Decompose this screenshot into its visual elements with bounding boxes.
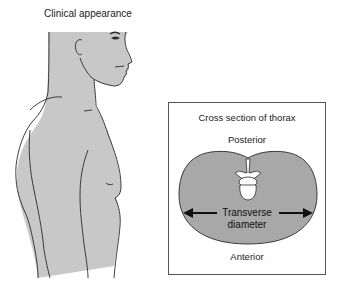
transverse-label-line1: Transverse	[169, 207, 325, 219]
transverse-label-line2: diameter	[169, 219, 325, 231]
anterior-label: Anterior	[169, 251, 325, 262]
cross-section-panel: Cross section of thorax Posterior Transv…	[168, 102, 326, 275]
body-silhouette	[17, 32, 132, 278]
patient-profile-illustration	[0, 0, 170, 292]
transverse-diameter-label: Transverse diameter	[169, 207, 325, 231]
